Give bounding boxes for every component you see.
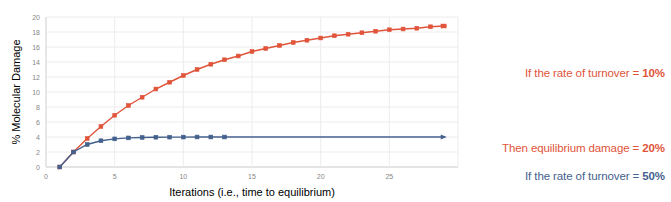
y-axis-tick-label: 12: [32, 74, 40, 81]
data-point-marker: [278, 44, 282, 48]
data-point-marker: [72, 150, 76, 154]
data-point-marker: [374, 29, 378, 33]
data-point-marker: [154, 87, 158, 91]
data-point-marker: [85, 137, 89, 141]
data-point-marker: [58, 165, 62, 169]
data-point-marker: [250, 50, 254, 54]
data-point-marker: [319, 36, 323, 40]
annotation-blue-line-1-text: If the rate of turnover =: [525, 170, 642, 182]
data-point-marker: [154, 135, 158, 139]
data-point-marker: [346, 32, 350, 36]
y-axis-tick-label: 0: [36, 164, 40, 171]
data-point-marker: [223, 135, 227, 139]
data-point-marker: [429, 25, 433, 29]
x-axis-tick-labels: 0510152025: [44, 173, 393, 180]
y-axis-tick-label: 18: [32, 29, 40, 36]
y-axis-tick-labels: 02468101214161820: [32, 14, 40, 171]
x-axis-tick-label: 25: [385, 173, 393, 180]
y-axis-tick-label: 10: [32, 89, 40, 96]
annotation-blue-line-1: If the rate of turnover = 50%: [487, 154, 665, 199]
data-point-marker: [387, 28, 391, 32]
data-point-marker: [113, 137, 117, 141]
data-point-marker: [113, 113, 117, 117]
data-point-marker: [140, 136, 144, 140]
y-axis-tick-label: 16: [32, 44, 40, 51]
annotation-turnover-50-percent: If the rate of turnover = 50% Then equil…: [487, 124, 665, 202]
y-axis-tick-label: 14: [32, 59, 40, 66]
chart-figure: 02468101214161820 0510152025 Iterations …: [0, 0, 671, 202]
data-point-marker: [168, 135, 172, 139]
x-axis-tick-label: 0: [44, 173, 48, 180]
x-axis-tick-label: 15: [248, 173, 256, 180]
data-point-marker: [168, 80, 172, 84]
data-point-marker: [181, 74, 185, 78]
y-axis-tick-label: 4: [36, 134, 40, 141]
annotation-red-line-1-value: 10%: [642, 67, 665, 79]
y-axis-tick-label: 8: [36, 104, 40, 111]
data-point-marker: [401, 27, 405, 31]
series-arrowhead: [441, 134, 447, 139]
data-point-marker: [360, 31, 364, 35]
data-point-marker: [127, 136, 131, 140]
annotation-red-line-1-text: If the rate of turnover =: [525, 67, 642, 79]
data-point-marker: [85, 143, 89, 147]
data-point-marker: [99, 125, 103, 129]
data-point-marker: [236, 54, 240, 58]
data-point-marker: [209, 62, 213, 66]
data-point-marker: [264, 47, 268, 51]
data-point-marker: [209, 135, 213, 139]
data-point-marker: [195, 68, 199, 72]
y-axis-tick-label: 6: [36, 119, 40, 126]
y-axis-title: % Molecular Damage: [10, 39, 22, 144]
y-axis-tick-label: 20: [32, 14, 40, 21]
data-point-marker: [415, 26, 419, 30]
annotation-red-line-1: If the rate of turnover = 10%: [484, 51, 665, 96]
data-point-marker: [333, 34, 337, 38]
data-point-marker: [291, 41, 295, 45]
annotation-blue-line-1-value: 50%: [642, 170, 665, 182]
data-point-marker: [195, 135, 199, 139]
x-axis-title: Iterations (i.e., time to equilibrium): [169, 186, 335, 198]
x-axis-tick-label: 5: [113, 173, 117, 180]
x-axis-tick-label: 20: [317, 173, 325, 180]
x-axis-tick-label: 10: [179, 173, 187, 180]
data-point-marker: [223, 58, 227, 62]
y-axis-tick-label: 2: [36, 149, 40, 156]
data-point-marker: [305, 38, 309, 42]
data-point-marker: [140, 95, 144, 99]
data-point-marker: [127, 104, 131, 108]
data-point-marker: [99, 139, 103, 143]
data-point-marker: [181, 135, 185, 139]
